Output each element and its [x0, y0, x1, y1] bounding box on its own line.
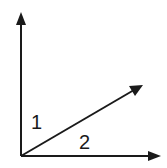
vertical-arrowhead-icon [16, 12, 26, 25]
horizontal-arrowhead-icon [148, 151, 161, 161]
diagonal-arrowhead-icon [129, 85, 143, 96]
angle-1-label: 1 [31, 112, 42, 132]
angle-2-label: 2 [79, 132, 90, 152]
